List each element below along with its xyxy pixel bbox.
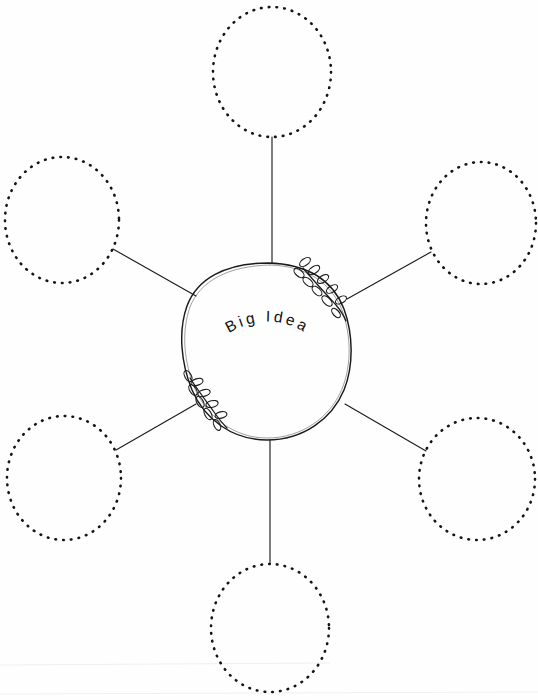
spoke-upper-left	[113, 249, 196, 296]
scan-artifacts	[0, 663, 538, 694]
idea-bubble-upper-left[interactable]	[5, 157, 119, 283]
big-idea-circle-wobble	[185, 265, 349, 438]
big-idea-label: Big Idea	[222, 308, 313, 336]
idea-bubble-lower-right[interactable]	[419, 418, 535, 540]
svg-text:Big Idea: Big Idea	[222, 308, 313, 336]
worksheet-canvas: Big Idea	[0, 0, 538, 700]
big-idea-label-text: Big Idea	[222, 308, 313, 336]
idea-bubbles	[5, 7, 536, 692]
spoke-lines	[113, 137, 431, 564]
big-idea-worksheet: Big Idea	[0, 0, 538, 700]
idea-bubble-lower-left[interactable]	[7, 416, 121, 540]
idea-bubble-upper-right[interactable]	[426, 162, 536, 284]
idea-bubble-bottom[interactable]	[211, 564, 329, 692]
spoke-upper-right	[347, 252, 431, 299]
laurel-branch-top-right	[292, 256, 347, 321]
spoke-lower-left	[116, 404, 196, 450]
idea-bubble-top[interactable]	[213, 7, 331, 137]
spoke-lower-right	[345, 404, 426, 451]
big-idea-circle[interactable]	[182, 263, 351, 440]
